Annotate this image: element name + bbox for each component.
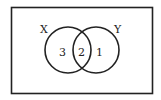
venn-diagram: X Y 3 2 1 [0,0,161,100]
region-y-only-value: 1 [96,46,103,59]
set-y-label: Y [113,23,122,36]
region-x-only-value: 3 [59,46,66,59]
region-intersection-value: 2 [78,46,85,59]
set-x-label: X [40,23,48,36]
